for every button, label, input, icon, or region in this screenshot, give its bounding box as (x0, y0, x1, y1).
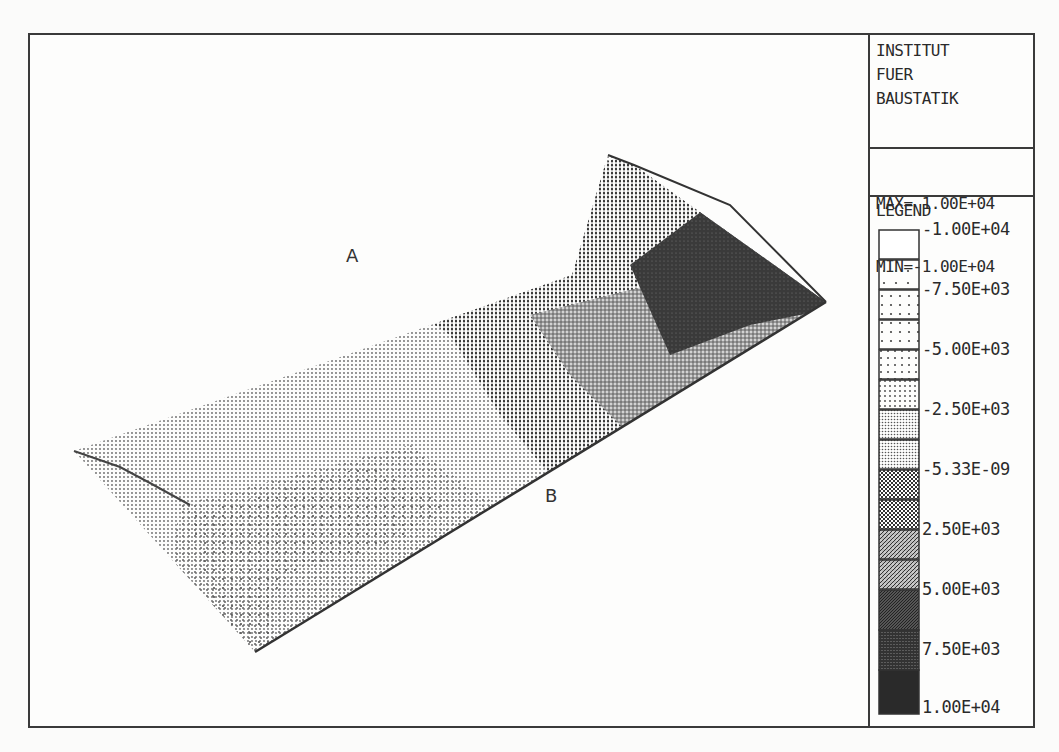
point-label-b: B (545, 485, 557, 506)
legend-label-4: -5.33E-09 (922, 459, 1010, 479)
contour-surface (30, 35, 868, 726)
point-label-a: A (346, 245, 358, 266)
legend-label-8: 1.00E+04 (922, 697, 1000, 717)
plot-frame: A B INSTITUT FUER BAUSTATIK MAX= 1.00E+0… (28, 33, 1035, 728)
legend-label-7: 7.50E+03 (922, 639, 1000, 659)
legend-label-3: -2.50E+03 (922, 399, 1010, 419)
legend-title: LEGEND (876, 201, 931, 220)
legend-swatch-stack (878, 229, 920, 715)
legend-label-6: 5.00E+03 (922, 579, 1000, 599)
contour-plot: A B (30, 35, 868, 726)
legend: LEGEND (870, 197, 1033, 724)
range-box: MAX= 1.00E+04 MIN=-1.00E+04 (870, 149, 1033, 197)
title-line-3: BAUSTATIK (876, 87, 1027, 111)
legend-label-1: -7.50E+03 (922, 279, 1010, 299)
legend-label-2: -5.00E+03 (922, 339, 1010, 359)
legend-swatches (878, 229, 920, 719)
institute-title: INSTITUT FUER BAUSTATIK (870, 35, 1033, 149)
title-line-1: INSTITUT (876, 39, 1027, 63)
title-line-2: FUER (876, 63, 1027, 87)
legend-label-0: -1.00E+04 (922, 219, 1010, 239)
legend-label-5: 2.50E+03 (922, 519, 1000, 539)
info-panel: INSTITUT FUER BAUSTATIK MAX= 1.00E+04 MI… (868, 35, 1033, 726)
